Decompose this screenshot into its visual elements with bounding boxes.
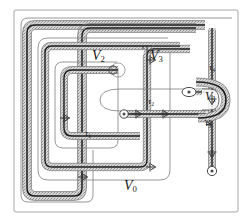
map-label-tau2: τ2 bbox=[148, 97, 154, 107]
region-label-V3: V3 bbox=[150, 49, 163, 64]
figure-canvas: V0 V1 V2 V3 τ1 τ2 τ3 τ4 bbox=[0, 0, 250, 222]
region-label-V2: V2 bbox=[92, 49, 105, 64]
region-label-V0: V0 bbox=[124, 179, 137, 194]
map-label-tau4: τ4 bbox=[209, 63, 215, 73]
map-label-tau3: τ3 bbox=[205, 119, 211, 129]
map-label-tau1: τ1 bbox=[85, 129, 91, 139]
region-label-V1: V1 bbox=[205, 90, 216, 104]
